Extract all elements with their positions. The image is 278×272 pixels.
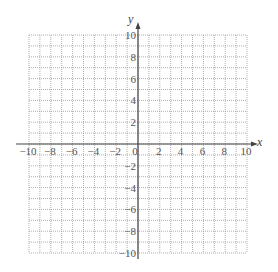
x-tick-label: −2 bbox=[109, 145, 121, 157]
y-tick-label: 2 bbox=[131, 116, 137, 128]
x-tick-label: −6 bbox=[66, 145, 78, 157]
y-tick-label: −10 bbox=[119, 247, 137, 259]
y-tick-label: 8 bbox=[131, 51, 137, 63]
x-tick-label: −8 bbox=[44, 145, 56, 157]
y-axis-arrow-icon bbox=[136, 22, 141, 29]
y-tick-label: −4 bbox=[124, 182, 136, 194]
x-tick-label: 2 bbox=[156, 145, 162, 157]
y-tick-label: −8 bbox=[124, 225, 136, 237]
x-tick-label: 0 bbox=[132, 145, 138, 157]
x-axis-label: x bbox=[256, 135, 263, 149]
axes bbox=[16, 22, 258, 259]
y-axis-label: y bbox=[127, 12, 134, 26]
y-tick-label: 6 bbox=[131, 73, 137, 85]
y-tick-label: 4 bbox=[131, 94, 137, 106]
y-tick-label: −2 bbox=[124, 160, 136, 172]
x-tick-label: 8 bbox=[221, 145, 227, 157]
x-tick-label: 6 bbox=[200, 145, 206, 157]
y-tick-label: 10 bbox=[125, 29, 137, 41]
x-tick-label: −4 bbox=[88, 145, 100, 157]
x-tick-label: 10 bbox=[241, 145, 253, 157]
x-tick-label: −10 bbox=[19, 145, 37, 157]
y-tick-label: −6 bbox=[124, 203, 136, 215]
x-tick-label: 4 bbox=[178, 145, 184, 157]
coordinate-plane: −10−8−6−4−20246810108642−2−4−6−8−10 x y bbox=[0, 0, 278, 272]
